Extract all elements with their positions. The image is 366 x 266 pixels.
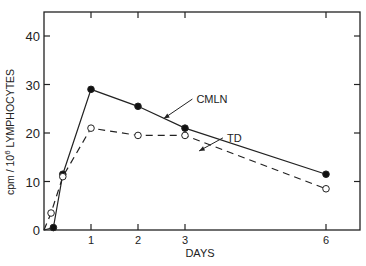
y-label-pre: cpm / 10	[4, 155, 16, 195]
x-tick-label: 2	[135, 234, 141, 246]
annotation-cmln: CMLN	[164, 93, 228, 118]
y-axis-label: cpm / 106 LYMPHOCYTES	[3, 69, 16, 195]
y-label-post: LYMPHOCYTES	[4, 69, 16, 151]
series-cmln	[44, 86, 329, 231]
open-circle-marker	[60, 173, 67, 180]
open-circle-marker	[135, 132, 142, 139]
plot-border	[44, 12, 360, 230]
annotations: CMLNTD	[164, 93, 242, 151]
open-circle-marker	[88, 125, 95, 132]
open-circle-marker	[323, 185, 330, 192]
series-td	[44, 125, 329, 230]
filled-circle-marker	[182, 125, 189, 132]
annotation-label: TD	[227, 132, 242, 144]
filled-circle-marker	[135, 103, 142, 110]
y-tick-label: 0	[33, 223, 40, 238]
arrowhead-icon	[164, 114, 170, 119]
series-line	[44, 128, 326, 230]
filled-circle-marker	[323, 171, 330, 178]
annotation-label: CMLN	[196, 93, 227, 105]
open-circle-marker	[182, 132, 189, 139]
y-tick-label: 40	[26, 29, 40, 44]
y-tick-label: 20	[26, 126, 40, 141]
plot-frame	[44, 12, 360, 230]
filled-circle-marker	[88, 86, 95, 93]
x-tick-label: 6	[323, 234, 329, 246]
series-line	[44, 89, 326, 230]
y-tick-label: 10	[26, 175, 40, 190]
y-tick-label: 30	[26, 78, 40, 93]
open-circle-marker	[48, 210, 55, 217]
x-tick-label: 3	[182, 234, 188, 246]
x-axis-label: DAYS	[185, 247, 214, 259]
series-group	[44, 86, 329, 231]
x-axis: 1236	[88, 12, 329, 246]
line-chart: 010203040 1236 CMLNTD DAYS cpm / 106 LYM…	[0, 0, 366, 266]
x-tick-label: 1	[88, 234, 94, 246]
filled-circle-marker	[50, 224, 57, 231]
